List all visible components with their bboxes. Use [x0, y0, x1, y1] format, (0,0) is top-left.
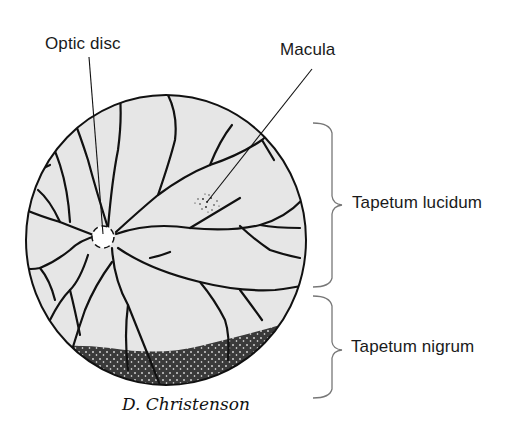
brace-tapetum-lucidum [313, 123, 342, 287]
brace-tapetum-nigrum [313, 296, 342, 398]
artist-signature: D. Christenson [121, 394, 250, 414]
fundus-diagram: D. Christenson [0, 0, 527, 428]
